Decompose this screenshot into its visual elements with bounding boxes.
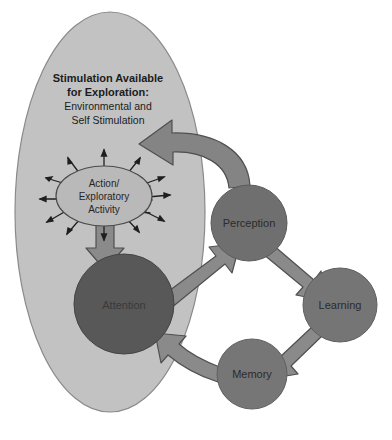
title-line-3: Environmental and — [64, 100, 152, 112]
action-label-line-1: Action/ — [89, 178, 120, 189]
perception-label: Perception — [223, 217, 276, 229]
title-line-2: for Exploration: — [67, 86, 149, 98]
title-line-1: Stimulation Available — [53, 72, 163, 84]
learning-label: Learning — [319, 299, 362, 311]
diagram-canvas: Stimulation Available for Exploration: E… — [0, 0, 392, 440]
action-label-line-3: Activity — [88, 204, 120, 215]
memory-label: Memory — [232, 368, 272, 380]
attention-label: Attention — [102, 299, 145, 311]
title-line-4: Self Stimulation — [72, 114, 145, 126]
exploration-cycle-diagram: Stimulation Available for Exploration: E… — [0, 0, 392, 440]
action-label-line-2: Exploratory — [79, 191, 130, 202]
